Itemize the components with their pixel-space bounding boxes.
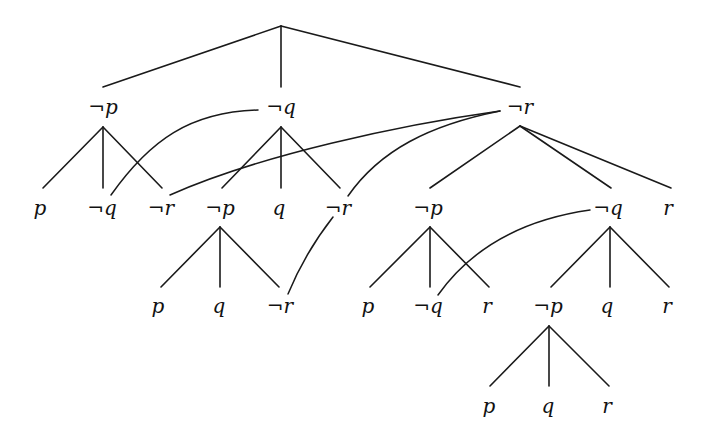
tableau-tree-diagram: ¬p ¬q ¬r p ¬q ¬r ¬p q ¬r ¬p ¬q r p q ¬r …: [0, 0, 701, 437]
arc-E-nq-to-C-nq: [438, 210, 590, 295]
node-E-r: r: [482, 296, 492, 316]
edges-C-nq: [551, 227, 669, 287]
node-B-not-p: ¬p: [205, 198, 235, 218]
node-G-q: q: [542, 396, 555, 416]
node-C-r: r: [663, 198, 673, 218]
node-A-not-q: ¬q: [87, 198, 117, 218]
node-B-q: q: [273, 198, 286, 218]
node-D-not-r: ¬r: [267, 296, 293, 316]
arc-D-nr-to-B-nr: [288, 217, 333, 294]
edges-B-np: [161, 227, 279, 287]
node-G-r: r: [602, 396, 612, 416]
node-A-not-r: ¬r: [148, 198, 174, 218]
edges-C-np: [370, 227, 489, 287]
node-G-p: p: [483, 396, 496, 416]
edges-nq: [222, 127, 340, 188]
node-E-p: p: [362, 296, 375, 316]
node-D-p: p: [152, 296, 165, 316]
node-level1-not-r: ¬r: [507, 97, 533, 117]
node-D-q: q: [213, 296, 226, 316]
arc-A-nq-to-L1-nq: [111, 110, 258, 195]
node-E-not-q: ¬q: [413, 296, 443, 316]
node-level1-not-p: ¬p: [88, 97, 118, 117]
node-C-not-q: ¬q: [593, 198, 623, 218]
node-C-not-p: ¬p: [413, 198, 443, 218]
node-B-not-r: ¬r: [325, 198, 351, 218]
node-level1-not-q: ¬q: [266, 97, 296, 117]
root-edges: [103, 26, 520, 87]
node-A-p: p: [34, 198, 47, 218]
node-F-q: q: [601, 296, 614, 316]
edges-F-np: [490, 326, 609, 386]
node-F-not-p: ¬p: [533, 296, 563, 316]
edges-np: [43, 127, 162, 188]
edges-nr: [430, 126, 671, 188]
node-F-r: r: [662, 296, 672, 316]
